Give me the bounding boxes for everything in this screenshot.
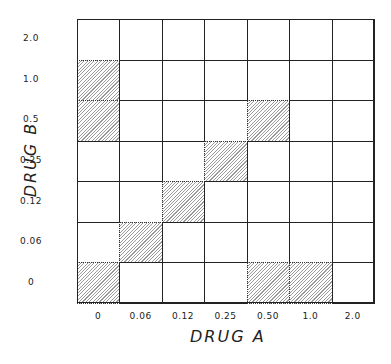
y-tick-label: 0.06 [10, 236, 52, 246]
empty-cell [247, 19, 290, 61]
x-tick-label: 0.12 [162, 311, 204, 321]
empty-cell [247, 141, 290, 183]
empty-cell [119, 100, 162, 142]
empty-cell [289, 19, 332, 61]
empty-cell [289, 60, 332, 102]
empty-cell [332, 222, 375, 264]
empty-cell [332, 100, 375, 142]
y-axis-label: DRUG B [21, 120, 40, 200]
empty-cell [332, 181, 375, 223]
empty-cell [119, 141, 162, 183]
empty-cell [332, 141, 375, 183]
empty-cell [204, 60, 247, 102]
empty-cell [119, 181, 162, 223]
shaded-cell [77, 100, 120, 142]
x-axis-label: DRUG A [190, 327, 266, 346]
shaded-cell [204, 141, 247, 183]
empty-cell [289, 141, 332, 183]
x-tick-label: 0.25 [205, 311, 247, 321]
shaded-cell [77, 262, 120, 304]
empty-cell [77, 19, 120, 61]
empty-cell [119, 60, 162, 102]
empty-cell [289, 181, 332, 223]
empty-cell [77, 141, 120, 183]
empty-cell [247, 181, 290, 223]
y-tick-label: 1.0 [10, 74, 52, 84]
empty-cell [204, 100, 247, 142]
shaded-cell [247, 262, 290, 304]
empty-cell [119, 19, 162, 61]
x-tick-label: 2.0 [332, 311, 374, 321]
shaded-cell [77, 60, 120, 102]
empty-cell [162, 19, 205, 61]
empty-cell [289, 100, 332, 142]
x-tick-label: 0 [77, 311, 119, 321]
empty-cell [204, 19, 247, 61]
empty-cell [204, 181, 247, 223]
empty-cell [162, 262, 205, 304]
y-tick-label: 2.0 [10, 33, 52, 43]
shaded-cell [289, 262, 332, 304]
shaded-cell [247, 100, 290, 142]
empty-cell [162, 141, 205, 183]
checkerboard-grid [77, 19, 374, 303]
shaded-cell [119, 222, 162, 264]
empty-cell [332, 262, 375, 304]
empty-cell [77, 181, 120, 223]
empty-cell [162, 60, 205, 102]
empty-cell [204, 262, 247, 304]
empty-cell [119, 262, 162, 304]
empty-cell [332, 60, 375, 102]
x-tick-label: 0.50 [247, 311, 289, 321]
y-tick-label: 0 [10, 277, 52, 287]
empty-cell [204, 222, 247, 264]
empty-cell [289, 222, 332, 264]
empty-cell [332, 19, 375, 61]
x-tick-label: 1.0 [289, 311, 331, 321]
empty-cell [77, 222, 120, 264]
empty-cell [162, 100, 205, 142]
empty-cell [162, 222, 205, 264]
shaded-cell [162, 181, 205, 223]
empty-cell [247, 222, 290, 264]
x-tick-label: 0.06 [120, 311, 162, 321]
empty-cell [247, 60, 290, 102]
